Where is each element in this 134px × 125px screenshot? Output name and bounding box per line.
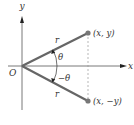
upper-ray-length-label: r [55, 35, 60, 45]
theta-label: θ [58, 52, 63, 62]
upper-point-label: (x, y) [93, 28, 115, 38]
x-axis-arrowhead-icon [120, 64, 127, 68]
diagram-canvas: y x O (x, y) (x, −y) r r θ −θ [0, 0, 134, 125]
neg-theta-label: −θ [58, 73, 70, 83]
lower-point [85, 98, 90, 103]
lower-point-label: (x, −y) [93, 96, 122, 106]
upper-point [85, 30, 90, 35]
coordinate-diagram: y x O (x, y) (x, −y) r r θ −θ [0, 0, 134, 125]
x-axis-label: x [128, 61, 133, 71]
origin-label: O [9, 68, 17, 78]
y-axis-label: y [19, 1, 26, 11]
y-axis-arrowhead-icon [20, 16, 24, 23]
lower-ray-length-label: r [55, 89, 60, 99]
